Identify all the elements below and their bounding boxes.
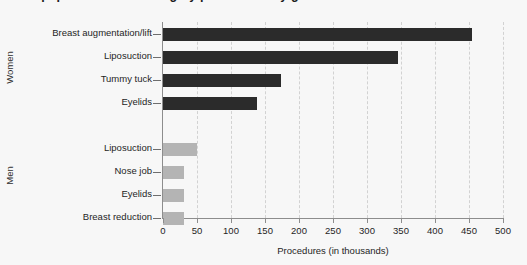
bar	[163, 51, 398, 64]
bar	[163, 97, 257, 110]
x-axis-tick	[401, 218, 402, 223]
category-tick	[153, 149, 161, 150]
bar	[163, 28, 472, 41]
category-label: Tummy tuck	[101, 73, 163, 84]
category-label: Liposuction	[104, 50, 163, 61]
category-label-row: Liposuction	[0, 50, 163, 61]
category-label: Breast reduction	[83, 211, 163, 222]
category-tick	[153, 34, 161, 35]
bar	[163, 166, 184, 179]
category-tick	[153, 80, 161, 81]
category-tick	[153, 172, 161, 173]
plot-area: 050100150200250300350400450500	[163, 22, 503, 218]
bar	[163, 212, 184, 225]
x-axis-tick	[469, 218, 470, 223]
gridline	[435, 22, 436, 218]
x-axis-tick	[197, 218, 198, 223]
bar	[163, 74, 281, 87]
category-label-row: Eyelids	[0, 188, 163, 199]
x-axis-tick	[299, 218, 300, 223]
category-label-row: Liposuction	[0, 142, 163, 153]
chart-title: Most popular cosmetic surgery procedures…	[8, 0, 518, 4]
x-axis-tick	[503, 218, 504, 223]
x-axis-tick	[265, 218, 266, 223]
category-label-row: Breast reduction	[0, 211, 163, 222]
category-label-row: Breast augmentation/lift	[0, 27, 163, 38]
group-label-women: Women	[4, 33, 15, 103]
x-axis-tick-label: 500	[483, 225, 523, 236]
category-label: Eyelids	[121, 188, 163, 199]
category-tick	[153, 218, 161, 219]
x-axis-tick	[163, 218, 164, 223]
gridline	[469, 22, 470, 218]
category-label-row: Nose job	[0, 165, 163, 176]
category-label: Liposuction	[104, 142, 163, 153]
gridline	[503, 22, 504, 218]
category-label: Breast augmentation/lift	[52, 27, 163, 38]
bar	[163, 143, 197, 156]
x-axis-tick	[435, 218, 436, 223]
x-axis-tick	[231, 218, 232, 223]
x-axis-tick	[333, 218, 334, 223]
category-label-row: Eyelids	[0, 96, 163, 107]
category-tick	[153, 103, 161, 104]
category-tick	[153, 57, 161, 58]
bar	[163, 189, 184, 202]
bar-chart: Most popular cosmetic surgery procedures…	[0, 0, 527, 265]
x-axis-tick	[367, 218, 368, 223]
category-label: Eyelids	[121, 96, 163, 107]
category-tick	[153, 195, 161, 196]
gridline	[401, 22, 402, 218]
category-label-row: Tummy tuck	[0, 73, 163, 84]
x-axis-title: Procedures (in thousands)	[163, 245, 503, 256]
category-label: Nose job	[115, 165, 164, 176]
